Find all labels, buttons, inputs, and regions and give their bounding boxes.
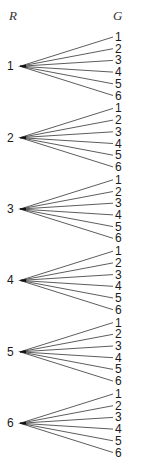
tree-diagram: R G 112345621234563123456412345651234566… xyxy=(0,0,145,464)
root-node-2: 2 xyxy=(7,132,14,144)
root-wedge-6 xyxy=(18,422,26,425)
root-node-5: 5 xyxy=(7,346,14,358)
root-node-1: 1 xyxy=(7,60,14,72)
leaf-node-5-6: 6 xyxy=(115,375,122,387)
root-node-3: 3 xyxy=(7,203,14,215)
leaf-node-2-6: 6 xyxy=(115,161,122,173)
tree-branches xyxy=(0,0,145,464)
root-wedge-5 xyxy=(18,350,26,353)
root-wedge-4 xyxy=(18,279,26,282)
leaf-node-2-3: 3 xyxy=(115,126,122,138)
leaf-node-1-5: 5 xyxy=(115,78,122,90)
root-wedge-2 xyxy=(18,136,26,139)
leaf-node-6-5: 5 xyxy=(115,435,122,447)
leaf-node-3-6: 6 xyxy=(115,232,122,244)
leaf-node-4-6: 6 xyxy=(115,304,122,316)
leaf-node-6-6: 6 xyxy=(115,447,122,459)
root-wedge-3 xyxy=(18,208,26,211)
leaf-node-3-1: 1 xyxy=(115,174,122,186)
root-wedge-1 xyxy=(18,65,26,68)
root-node-4: 4 xyxy=(7,274,14,286)
leaf-node-1-6: 6 xyxy=(115,90,122,102)
root-node-6: 6 xyxy=(7,417,14,429)
